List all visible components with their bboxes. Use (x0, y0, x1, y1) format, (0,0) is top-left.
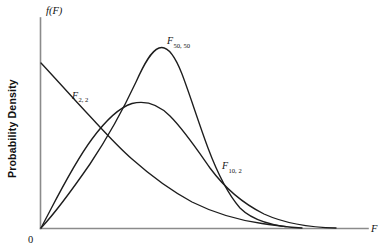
annotation-f-2-2-subscript: 2, 2 (79, 96, 89, 103)
y-axis-title: f(F) (46, 5, 63, 17)
origin-label: 0 (28, 234, 33, 245)
annotation-f-10-2: F 10, 2 (221, 160, 242, 174)
annotation-f-50-50-subscript: 50, 50 (174, 42, 191, 49)
curve-f-2-2 (41, 63, 286, 227)
y-axis-caption: Probability Density (6, 79, 18, 178)
annotation-f-50-50: F 50, 50 (166, 35, 191, 49)
curve-f-10-2 (41, 102, 336, 228)
annotation-f-10-2-subscript: 10, 2 (229, 167, 242, 174)
f-distribution-density-figure: f(F) F 0 Probability Density F 2, 2 F 50… (0, 0, 388, 250)
annotation-f-2-2: F 2, 2 (71, 90, 88, 103)
plot-canvas: f(F) F 0 Probability Density F 2, 2 F 50… (0, 0, 388, 250)
curve-f-50-50 (41, 48, 302, 228)
x-axis-title: F (370, 223, 378, 234)
